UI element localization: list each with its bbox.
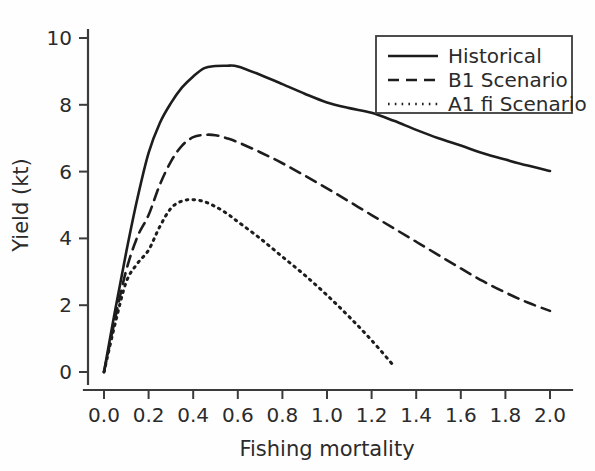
y-tick-label: 10 — [47, 26, 72, 50]
x-tick-label: 2.0 — [534, 403, 566, 427]
y-tick-label: 2 — [59, 293, 72, 317]
x-axis-title: Fishing mortality — [239, 437, 414, 461]
x-tick-label: 0.8 — [266, 403, 298, 427]
y-tick-label: 6 — [59, 160, 72, 184]
x-axis-ticks — [104, 390, 550, 399]
x-tick-label: 1.6 — [445, 403, 477, 427]
x-tick-label: 0.0 — [88, 403, 120, 427]
x-tick-label: 0.2 — [133, 403, 165, 427]
x-tick-label: 0.6 — [222, 403, 254, 427]
plot-area: 0246810 0.00.20.40.60.81.01.21.41.61.82.… — [0, 0, 595, 471]
series-line-a1-fi-scenario — [104, 200, 394, 372]
y-tick-label: 8 — [59, 93, 72, 117]
chart-legend: HistoricalB1 ScenarioA1 fi Scenario — [376, 36, 587, 116]
y-axis-tick-labels: 0246810 — [47, 26, 72, 384]
y-tick-label: 0 — [59, 360, 72, 384]
y-axis-title: Yield (kt) — [9, 158, 33, 252]
x-tick-label: 1.0 — [311, 403, 343, 427]
x-axis-tick-labels: 0.00.20.40.60.81.01.21.41.61.82.0 — [88, 403, 566, 427]
y-tick-label: 4 — [59, 226, 72, 250]
x-tick-label: 1.8 — [489, 403, 521, 427]
y-axis-ticks — [79, 38, 88, 372]
legend-label: Historical — [448, 44, 542, 68]
chart-figure: 0246810 0.00.20.40.60.81.01.21.41.61.82.… — [0, 0, 595, 471]
legend-label: B1 Scenario — [448, 68, 568, 92]
x-tick-label: 1.4 — [400, 403, 432, 427]
x-tick-label: 0.4 — [177, 403, 209, 427]
x-tick-label: 1.2 — [356, 403, 388, 427]
series-line-b1-scenario — [104, 135, 550, 372]
legend-label: A1 fi Scenario — [448, 92, 587, 116]
